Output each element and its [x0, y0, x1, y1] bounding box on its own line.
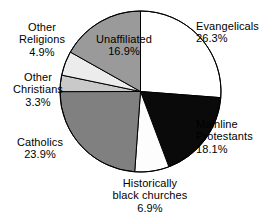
pie-label-other-christians-name2: Christians — [2, 83, 74, 95]
pie-label-catholics-value: 23.9% — [2, 148, 78, 160]
pie-chart: Evangelicals 26.3% Mainline Protestants … — [0, 0, 274, 217]
pie-label-other-religions: Other Religions 4.9% — [6, 21, 78, 58]
pie-label-catholics: Catholics 23.9% — [2, 136, 78, 161]
pie-label-other-religions-name2: Religions — [6, 33, 78, 45]
pie-label-mainline-protestants: Mainline Protestants 18.1% — [196, 118, 253, 155]
pie-label-unaffiliated-name: Unaffiliated — [84, 33, 164, 45]
pie-label-historically-black-churches-name2: black churches — [98, 189, 202, 201]
pie-label-historically-black-churches-value: 6.9% — [98, 202, 202, 214]
pie-label-other-religions-name1: Other — [6, 21, 78, 33]
pie-label-mainline-protestants-name1: Mainline — [196, 118, 253, 130]
pie-label-other-christians-name1: Other — [2, 71, 74, 83]
pie-label-evangelicals: Evangelicals 26.3% — [196, 20, 259, 45]
pie-label-other-christians: Other Christians 3.3% — [2, 71, 74, 108]
pie-label-other-christians-value: 3.3% — [2, 96, 74, 108]
pie-label-mainline-protestants-value: 18.1% — [196, 143, 253, 155]
pie-label-historically-black-churches-name1: Historically — [98, 177, 202, 189]
pie-label-other-religions-value: 4.9% — [6, 46, 78, 58]
pie-label-historically-black-churches: Historically black churches 6.9% — [98, 177, 202, 214]
pie-label-unaffiliated: Unaffiliated 16.9% — [84, 33, 164, 58]
pie-label-unaffiliated-value: 16.9% — [84, 45, 164, 57]
pie-label-mainline-protestants-name2: Protestants — [196, 130, 253, 142]
pie-label-evangelicals-name: Evangelicals — [196, 20, 259, 32]
pie-label-catholics-name: Catholics — [2, 136, 78, 148]
pie-label-evangelicals-value: 26.3% — [196, 32, 259, 44]
